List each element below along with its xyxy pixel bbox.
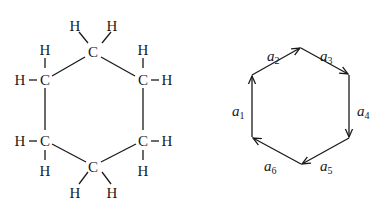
directed-hexagon-graph: a1 a2 a3 a4 a5 a6 xyxy=(232,48,370,176)
hydrogen-atom: H xyxy=(138,42,149,58)
hydrogen-atom: H xyxy=(107,18,118,34)
hydrogen-atom: H xyxy=(40,163,51,179)
carbon-atom: C xyxy=(138,72,148,88)
hydrogen-atom: H xyxy=(138,163,149,179)
hydrogen-atom: H xyxy=(162,133,173,149)
edge-label-a2: a2 xyxy=(267,48,280,66)
hydrogen-atom: H xyxy=(40,42,51,58)
edge-label-a4: a4 xyxy=(357,103,370,121)
carbon-atom: C xyxy=(138,133,148,149)
carbon-atom: C xyxy=(40,133,50,149)
edge-a6 xyxy=(253,138,301,164)
carbon-atom: C xyxy=(40,72,50,88)
bond-bottom-lower-left xyxy=(52,144,86,162)
cyclohexane-molecule: C C C C C C H H H H H H H H H H H H xyxy=(15,18,173,201)
bond-top-upper-right xyxy=(101,57,135,76)
diagram-canvas: C C C C C C H H H H H H H H H H H H a1 a… xyxy=(0,0,383,212)
hydrogen-atom: H xyxy=(15,72,26,88)
bond-upper-left-top xyxy=(52,57,85,76)
carbon-atom: C xyxy=(88,159,98,175)
bond-ch xyxy=(79,172,88,184)
bond-lower-right-bottom xyxy=(101,144,136,162)
edge-label-a1: a1 xyxy=(232,103,245,121)
hydrogen-atom: H xyxy=(70,185,81,201)
edge-label-a3: a3 xyxy=(320,48,333,66)
bond-ch xyxy=(102,172,111,184)
hydrogen-atom: H xyxy=(15,133,26,149)
hydrogen-atom: H xyxy=(70,18,81,34)
carbon-atom: C xyxy=(88,44,98,60)
edge-label-a6: a6 xyxy=(264,158,277,176)
edge-label-a5: a5 xyxy=(320,158,333,176)
hydrogen-atom: H xyxy=(107,185,118,201)
hydrogen-atom: H xyxy=(162,72,173,88)
